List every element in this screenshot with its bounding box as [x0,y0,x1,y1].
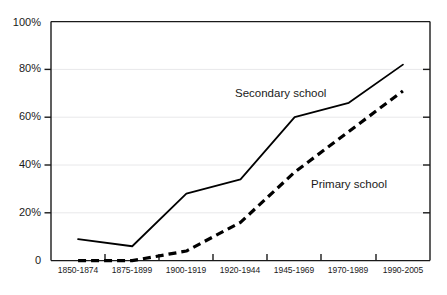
ytick-label-40: 40% [19,158,41,170]
series-annotation-secondary-school: Secondary school [235,87,326,99]
xtick-label-1945-1969: 1945-1969 [274,265,315,275]
line-chart: 100% 80% 60% 40% 20% 0 1850-1874 1875-18… [0,0,447,295]
xtick-label-1875-1899: 1875-1899 [112,265,153,275]
ytick-label-0: 0 [35,254,41,266]
ytick-label-80: 80% [19,62,41,74]
xtick-label-1900-1919: 1900-1919 [166,265,207,275]
ytick-label-20: 20% [19,206,41,218]
xtick-label-1970-1989: 1970-1989 [328,265,369,275]
ytick-label-60: 60% [19,110,41,122]
chart-page: 100% 80% 60% 40% 20% 0 1850-1874 1875-18… [0,0,447,295]
series-annotation-primary-school: Primary school [311,178,387,190]
xtick-label-1850-1874: 1850-1874 [58,265,99,275]
xtick-label-1920-1944: 1920-1944 [220,265,261,275]
chart-background [0,0,447,295]
xtick-label-1990-2005: 1990-2005 [383,265,424,275]
ytick-label-100: 100% [13,16,41,28]
